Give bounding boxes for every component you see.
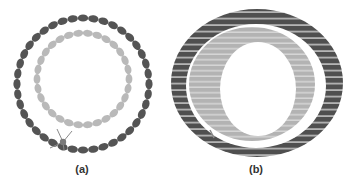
panel-label-a: (a)	[75, 163, 88, 175]
bead	[34, 74, 41, 84]
inner-tube-band	[160, 0, 344, 165]
bead	[144, 68, 153, 79]
bead	[126, 74, 133, 84]
bead	[97, 16, 109, 26]
bead	[141, 98, 151, 110]
bead	[78, 14, 88, 21]
bead	[73, 121, 84, 129]
bead	[34, 64, 43, 75]
inner-bead-ring	[34, 29, 133, 128]
panel-b	[160, 0, 344, 165]
figure-canvas	[0, 0, 344, 183]
bead	[97, 142, 109, 152]
panel-a	[13, 14, 152, 153]
bead	[78, 146, 88, 153]
bead	[88, 145, 99, 154]
bead	[63, 31, 75, 41]
bead	[15, 98, 25, 110]
bead	[91, 31, 103, 41]
bead	[67, 14, 78, 23]
bead	[57, 16, 69, 26]
bead	[124, 64, 133, 75]
outer-bead-ring	[13, 14, 152, 153]
bead	[13, 79, 20, 89]
bead	[91, 118, 103, 128]
bead	[15, 58, 25, 70]
bead	[145, 79, 152, 89]
bead	[63, 118, 75, 128]
bead	[34, 83, 43, 94]
bead	[67, 145, 78, 154]
bead	[82, 29, 93, 37]
bead	[124, 83, 133, 94]
bead	[13, 89, 22, 100]
bead	[141, 58, 151, 70]
panel-label-b: (b)	[249, 163, 263, 175]
bead	[88, 14, 99, 23]
bead	[144, 89, 153, 100]
bead	[73, 29, 84, 37]
bead	[13, 68, 22, 79]
bead	[82, 121, 93, 129]
